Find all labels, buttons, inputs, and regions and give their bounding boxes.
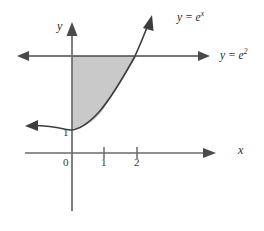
shaded-region (72, 56, 137, 129)
line-equation-exponent: 2 (244, 47, 248, 56)
curve-equation-label: y = ex (177, 12, 204, 24)
curve-equation-base: y = e (177, 11, 201, 23)
x-axis (25, 148, 216, 158)
math-figure: y x 0 1 2 1 y = ex y = e2 (0, 0, 264, 231)
figure-canvas (0, 0, 264, 231)
line-equation-label: y = e2 (220, 50, 247, 62)
y-axis-label: y (57, 20, 62, 32)
curve-equation-exponent: x (201, 9, 204, 18)
line-equation-base: y = e (220, 49, 244, 61)
y-mark-label-1: 1 (63, 127, 69, 138)
x-tick-label-2: 2 (134, 157, 140, 168)
x-axis-label: x (238, 144, 243, 156)
origin-label: 0 (63, 157, 69, 168)
x-tick-label-1: 1 (101, 157, 107, 168)
